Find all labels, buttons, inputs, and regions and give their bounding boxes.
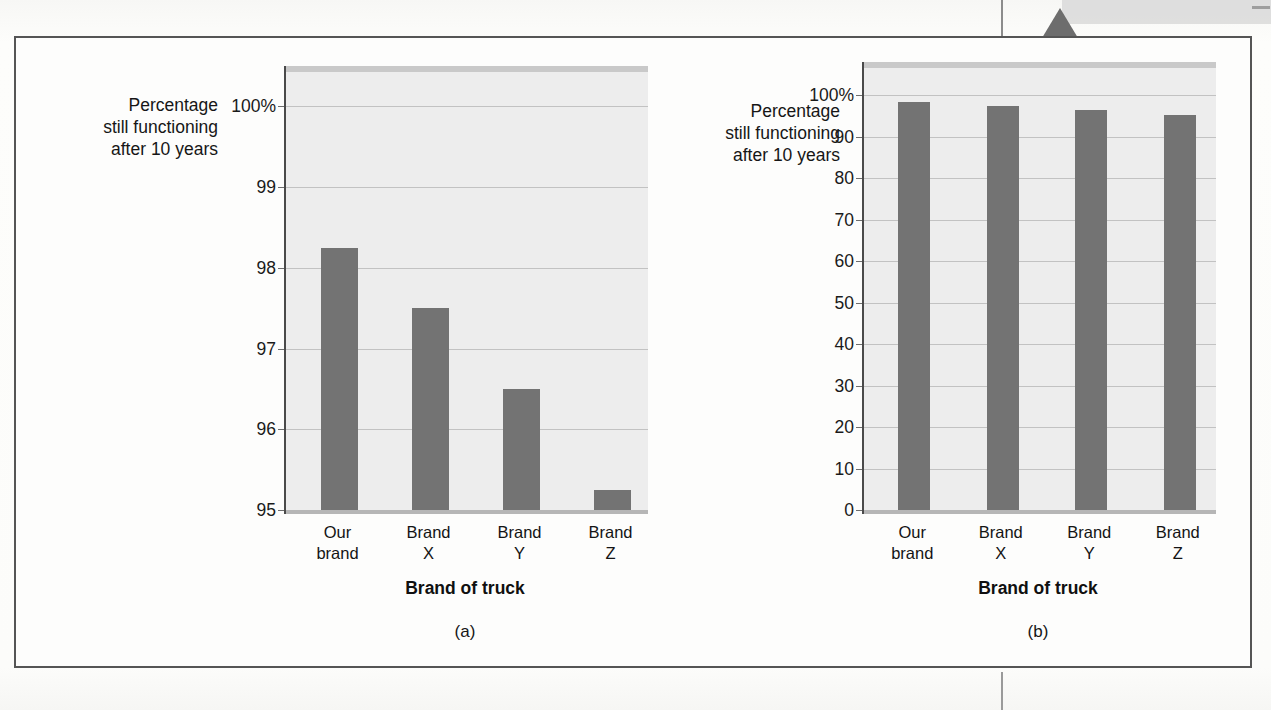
x-axis-category-label-line: Brand bbox=[474, 522, 565, 543]
x-axis-category-label-line: Brand bbox=[1045, 522, 1134, 543]
scan-corner-tick bbox=[1252, 6, 1270, 9]
x-axis-category-label-line: Our bbox=[292, 522, 383, 543]
y-axis-tick-label: 80 bbox=[792, 168, 854, 189]
plot-area-a bbox=[284, 66, 648, 514]
x-axis-category-label-line: X bbox=[383, 543, 474, 564]
y-axis-tick-label: 96 bbox=[214, 419, 276, 440]
y-axis-title-line-2: still functioning bbox=[36, 116, 218, 138]
panel-caption-a: (a) bbox=[284, 622, 646, 642]
y-axis-tick-label: 100% bbox=[214, 96, 276, 117]
y-axis-tick-label: 40 bbox=[792, 334, 854, 355]
y-axis-tick bbox=[856, 303, 862, 304]
bar bbox=[898, 102, 930, 510]
y-axis-title-a: Percentage still functioning after 10 ye… bbox=[36, 94, 218, 160]
x-axis-category-label-line: Brand bbox=[383, 522, 474, 543]
bar bbox=[1075, 110, 1107, 510]
y-axis-title-line-3: after 10 years bbox=[658, 144, 840, 166]
gridline bbox=[864, 95, 1216, 96]
x-axis-category-label-line: Brand bbox=[1134, 522, 1223, 543]
panel-caption-b: (b) bbox=[862, 622, 1214, 642]
triangle-marker-icon bbox=[1042, 8, 1078, 38]
y-axis-tick bbox=[856, 220, 862, 221]
bar bbox=[1164, 115, 1196, 510]
y-axis-tick bbox=[856, 137, 862, 138]
plot-area-b bbox=[862, 62, 1216, 514]
y-axis-tick bbox=[278, 106, 284, 107]
y-axis-tick bbox=[278, 510, 284, 511]
bar bbox=[503, 389, 539, 510]
y-axis-tick bbox=[856, 427, 862, 428]
y-axis-tick-label: 50 bbox=[792, 292, 854, 313]
x-axis-category-label: BrandY bbox=[474, 522, 565, 564]
y-axis-tick-label: 60 bbox=[792, 251, 854, 272]
x-axis-title-a: Brand of truck bbox=[284, 578, 646, 599]
bar bbox=[321, 248, 357, 510]
x-axis-category-label: Ourbrand bbox=[868, 522, 957, 564]
plot-top-band-a bbox=[286, 66, 648, 72]
bar-chart-b: Percentage still functioning after 10 ye… bbox=[633, 38, 1250, 666]
y-axis-tick bbox=[856, 469, 862, 470]
x-axis-category-label: Ourbrand bbox=[292, 522, 383, 564]
y-axis-tick-label: 98 bbox=[214, 257, 276, 278]
y-axis-title-line-3: after 10 years bbox=[36, 138, 218, 160]
y-axis-tick bbox=[278, 429, 284, 430]
chart-panel-b: Percentage still functioning after 10 ye… bbox=[633, 38, 1250, 666]
x-axis-category-label: BrandX bbox=[957, 522, 1046, 564]
bar bbox=[594, 490, 630, 510]
y-axis-tick-label: 99 bbox=[214, 177, 276, 198]
bar bbox=[412, 308, 448, 510]
x-axis-category-label-line: Y bbox=[474, 543, 565, 564]
figure-frame: Percentage still functioning after 10 ye… bbox=[14, 36, 1252, 668]
x-axis-title-b: Brand of truck bbox=[862, 578, 1214, 599]
y-axis-tick-label: 95 bbox=[214, 500, 276, 521]
x-axis-category-label: BrandZ bbox=[1134, 522, 1223, 564]
plot-top-band-b bbox=[864, 62, 1216, 68]
y-axis-tick-label: 20 bbox=[792, 417, 854, 438]
y-axis-title-line-1: Percentage bbox=[36, 94, 218, 116]
x-axis-category-label-line: Y bbox=[1045, 543, 1134, 564]
x-axis-category-label-line: Z bbox=[1134, 543, 1223, 564]
y-axis-tick bbox=[278, 268, 284, 269]
x-axis-category-label-line: brand bbox=[868, 543, 957, 564]
y-axis-tick bbox=[856, 344, 862, 345]
x-axis-category-label-line: Our bbox=[868, 522, 957, 543]
y-axis-tick-label: 0 bbox=[792, 500, 854, 521]
y-axis-tick bbox=[856, 510, 862, 511]
y-axis-tick-label: 70 bbox=[792, 209, 854, 230]
x-axis-category-label: BrandY bbox=[1045, 522, 1134, 564]
x-axis-category-label-line: X bbox=[957, 543, 1046, 564]
y-axis-tick bbox=[856, 178, 862, 179]
y-axis-tick-label: 10 bbox=[792, 458, 854, 479]
y-axis-tick-label: 100% bbox=[792, 85, 854, 106]
gridline bbox=[286, 187, 648, 188]
bar bbox=[987, 106, 1019, 510]
y-axis-tick bbox=[856, 95, 862, 96]
x-axis-category-label-line: Brand bbox=[957, 522, 1046, 543]
y-axis-tick-label: 97 bbox=[214, 338, 276, 359]
scan-gray-band bbox=[1062, 0, 1271, 24]
y-axis-tick-label: 90 bbox=[792, 126, 854, 147]
bar-chart-a: Percentage still functioning after 10 ye… bbox=[16, 38, 633, 666]
scan-vertical-rule-top bbox=[1001, 0, 1003, 40]
y-axis-tick bbox=[278, 349, 284, 350]
y-axis-tick bbox=[856, 261, 862, 262]
x-axis-category-label-line: brand bbox=[292, 543, 383, 564]
gridline bbox=[286, 106, 648, 107]
y-axis-tick bbox=[856, 386, 862, 387]
plot-baseline-b bbox=[864, 510, 1216, 514]
y-axis-tick bbox=[278, 187, 284, 188]
x-axis-category-label: BrandX bbox=[383, 522, 474, 564]
figure-panels: Percentage still functioning after 10 ye… bbox=[16, 38, 1250, 666]
chart-panel-a: Percentage still functioning after 10 ye… bbox=[16, 38, 633, 666]
scan-vertical-rule-bottom bbox=[1001, 672, 1003, 710]
plot-baseline-a bbox=[286, 510, 648, 514]
y-axis-tick-label: 30 bbox=[792, 375, 854, 396]
